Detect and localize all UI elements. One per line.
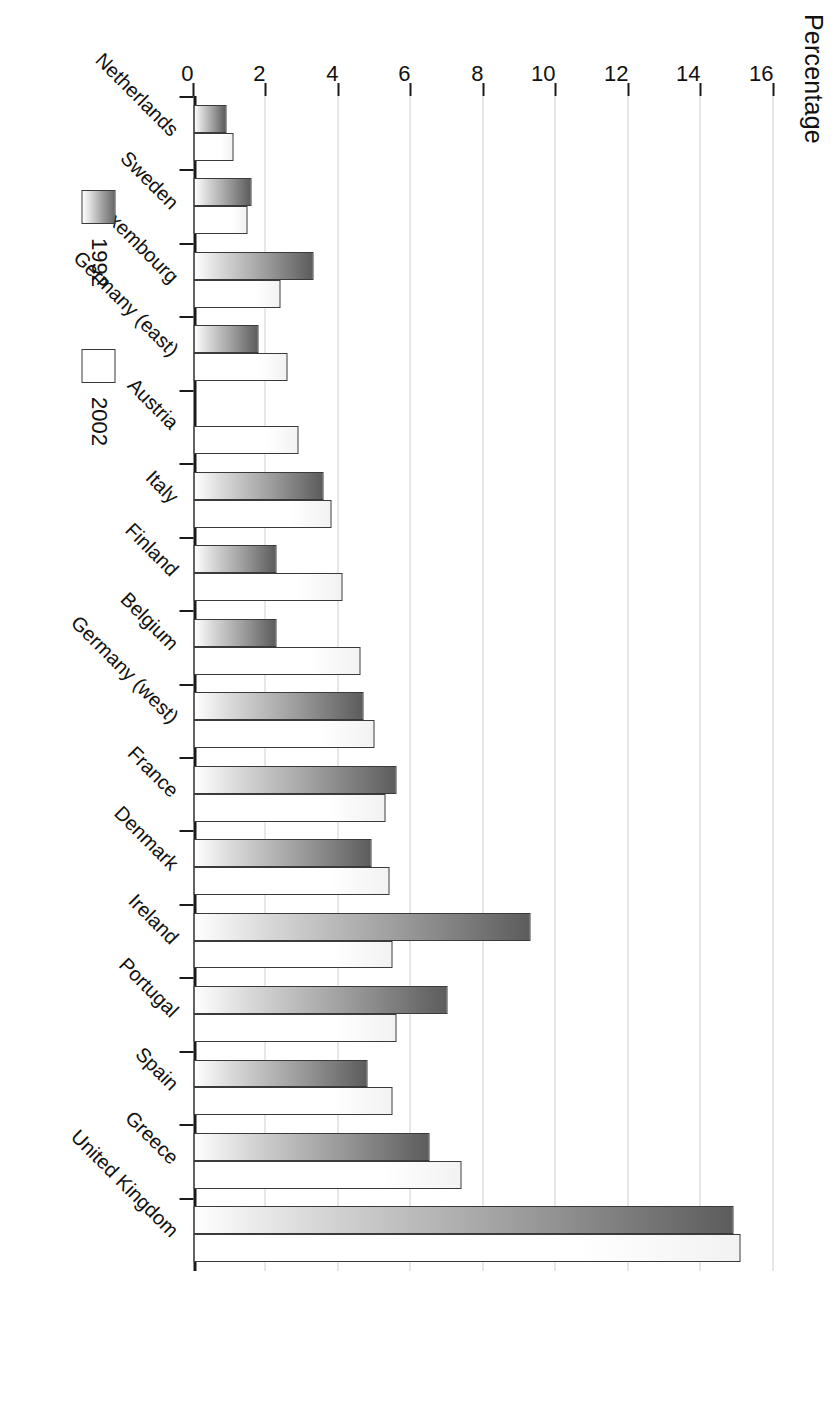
bar-2002-denmark — [193, 867, 389, 895]
category-label: Italy — [140, 466, 182, 508]
bar-2002-luxembourg — [193, 280, 280, 308]
bar-2002-italy — [193, 500, 331, 528]
bar-2002-ireland — [193, 941, 392, 969]
bar-2002-belgium — [193, 647, 360, 675]
bar-1992-ireland — [193, 913, 530, 941]
value-tick-label: 10 — [531, 61, 555, 87]
plot-area: 0246810121416 NetherlandsSwedenLuxembour… — [193, 96, 773, 1271]
bar-1992-greece — [193, 1133, 429, 1161]
bar-1992-sweden — [193, 178, 251, 206]
bar-2002-greece — [193, 1161, 461, 1189]
bar-group — [193, 390, 773, 463]
value-tick-label: 4 — [326, 61, 338, 87]
legend-swatch-2002-icon — [81, 349, 115, 383]
bar-2002-united-kingdom — [193, 1234, 740, 1262]
bar-2002-netherlands — [193, 133, 233, 161]
category-tick — [179, 684, 193, 686]
bar-group — [193, 684, 773, 757]
category-tick — [179, 243, 193, 245]
legend-label-1992: 1992 — [85, 238, 111, 287]
category-label: Sweden — [115, 147, 182, 214]
category-tick — [179, 830, 193, 832]
category-tick — [179, 977, 193, 979]
bar-2002-germany-west — [193, 720, 374, 748]
legend-item-1992: 1992 — [81, 190, 115, 287]
category-tick — [179, 1124, 193, 1126]
bar-1992-spain — [193, 1060, 367, 1088]
bar-group — [193, 316, 773, 389]
value-tick-label: 6 — [398, 61, 410, 87]
bar-1992-denmark — [193, 839, 371, 867]
bar-1992-belgium — [193, 619, 276, 647]
bar-groups: NetherlandsSwedenLuxembourgGermany (east… — [193, 96, 773, 1271]
category-tick — [179, 463, 193, 465]
bar-group — [193, 243, 773, 316]
category-tick — [179, 169, 193, 171]
category-tick — [179, 904, 193, 906]
bar-group — [193, 757, 773, 830]
value-tick-label: 8 — [471, 61, 483, 87]
category-label: Ireland — [123, 889, 183, 949]
bar-1992-luxembourg — [193, 252, 313, 280]
bar-2002-portugal — [193, 1014, 396, 1042]
bar-1992-portugal — [193, 986, 447, 1014]
chart-canvas: Percentage 0246810121416 NetherlandsSwed… — [0, 0, 835, 1426]
category-label: Belgium — [115, 588, 182, 655]
category-tick — [179, 316, 193, 318]
bar-group — [193, 169, 773, 242]
value-tick-label: 12 — [604, 61, 628, 87]
bar-group — [193, 1124, 773, 1197]
category-tick — [179, 757, 193, 759]
category-label: Greece — [120, 1106, 183, 1169]
bar-1992-netherlands — [193, 105, 226, 133]
legend-label-2002: 2002 — [85, 397, 111, 446]
bar-group — [193, 1198, 773, 1271]
bar-group — [193, 610, 773, 683]
bar-2002-spain — [193, 1087, 392, 1115]
value-tick-label: 0 — [181, 61, 193, 87]
legend-item-2002: 2002 — [81, 349, 115, 446]
bar-group — [193, 904, 773, 977]
legend: 1992 2002 — [81, 190, 115, 446]
category-label: Austria — [122, 374, 182, 434]
bar-1992-france — [193, 766, 396, 794]
bar-1992-germany-west — [193, 692, 363, 720]
bar-1992-united-kingdom — [193, 1206, 733, 1234]
category-label: Denmark — [109, 802, 183, 876]
bar-2002-austria — [193, 426, 298, 454]
bar-group — [193, 537, 773, 610]
bar-2002-germany-east — [193, 353, 287, 381]
category-label: Finland — [120, 519, 183, 582]
bar-group — [193, 463, 773, 536]
category-label: France — [122, 742, 182, 802]
category-tick — [179, 1198, 193, 1200]
bar-group — [193, 1051, 773, 1124]
bar-2002-sweden — [193, 206, 247, 234]
category-tick — [179, 96, 193, 98]
value-axis-title: Percentage — [798, 14, 827, 144]
value-tick-label: 2 — [253, 61, 265, 87]
category-tick — [179, 390, 193, 392]
category-tick — [179, 1051, 193, 1053]
bar-group — [193, 830, 773, 903]
category-tick — [179, 537, 193, 539]
bar-2002-finland — [193, 573, 342, 601]
category-label: Netherlands — [90, 48, 183, 141]
bar-group — [193, 96, 773, 169]
value-tick-label: 14 — [676, 61, 700, 87]
bar-2002-france — [193, 794, 385, 822]
category-label: Portugal — [114, 953, 183, 1022]
category-tick — [179, 610, 193, 612]
bar-1992-germany-east — [193, 325, 258, 353]
legend-swatch-1992-icon — [81, 190, 115, 224]
bar-group — [193, 977, 773, 1050]
category-label: Spain — [130, 1043, 182, 1095]
value-tick-label: 16 — [749, 61, 773, 87]
bar-1992-italy — [193, 472, 324, 500]
bar-1992-finland — [193, 545, 276, 573]
